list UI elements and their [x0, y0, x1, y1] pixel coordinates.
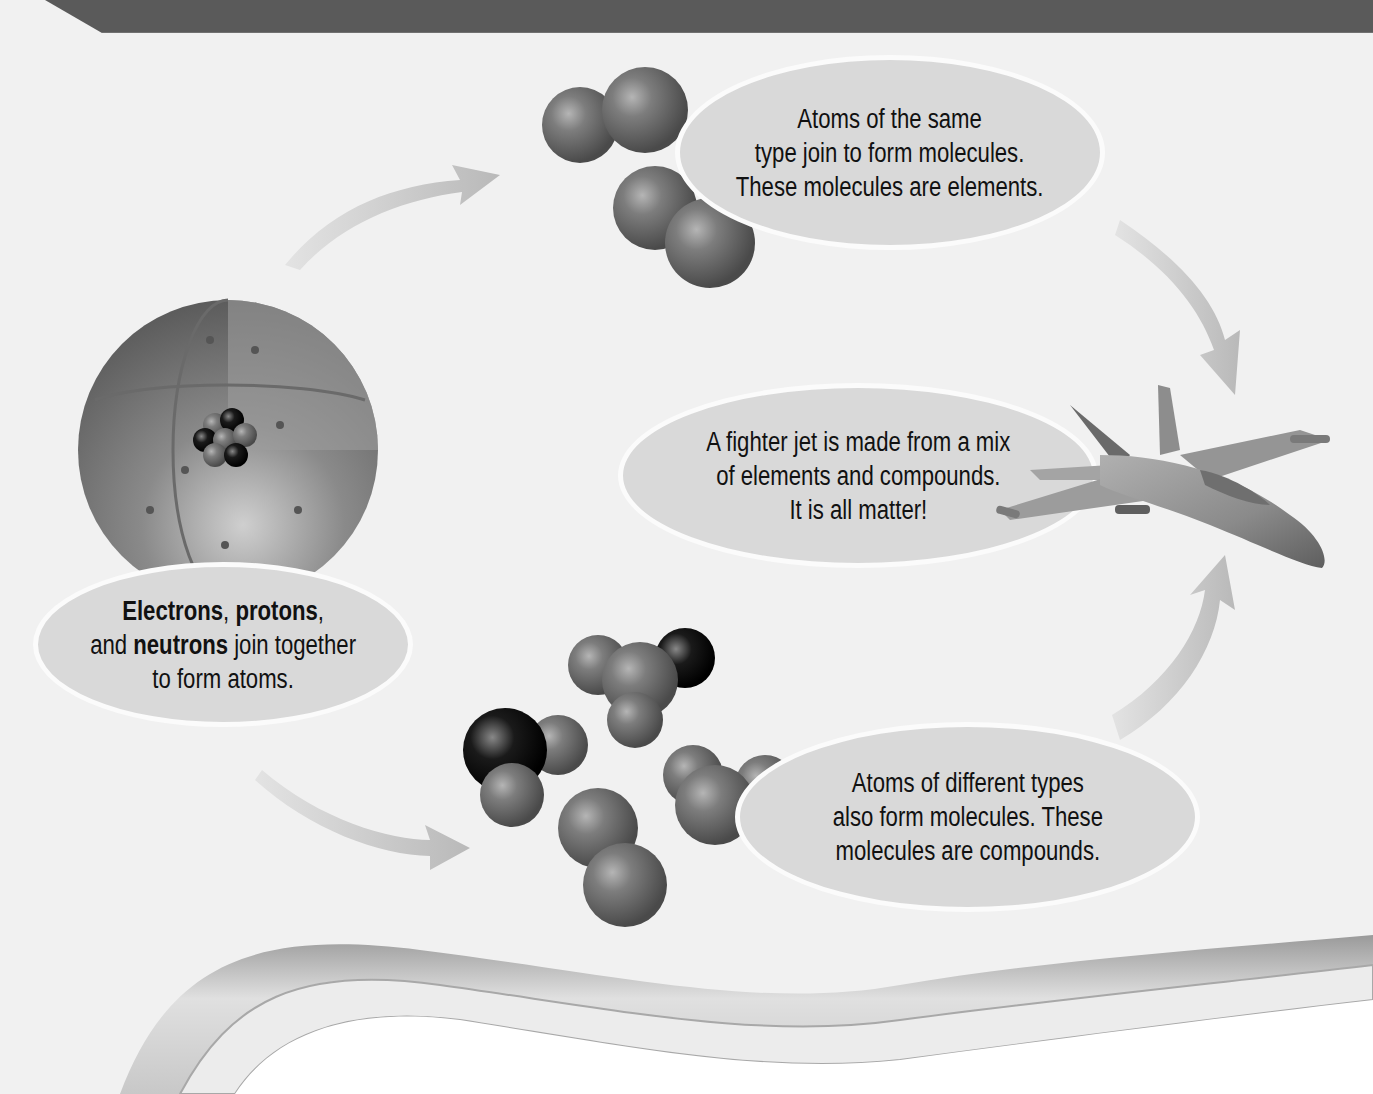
elements-caption-line1: Atoms of the same: [798, 104, 983, 134]
protons-term: protons: [235, 596, 317, 626]
caption-text: join together: [228, 630, 356, 660]
caption-text: ,: [223, 596, 235, 626]
caption-text: ,: [318, 596, 324, 626]
elements-caption-line3: These molecules are elements.: [736, 172, 1044, 202]
electrons-term: Electrons: [122, 596, 223, 626]
elements-caption-line2: type join to form molecules.: [755, 138, 1024, 168]
caption-text: to form atoms.: [152, 664, 293, 694]
neutrons-term: neutrons: [133, 630, 228, 660]
compounds-caption-line2: also form molecules. These: [832, 802, 1102, 832]
compounds-caption-line3: molecules are compounds.: [835, 836, 1100, 866]
compounds-caption-line1: Atoms of different types: [851, 768, 1083, 798]
elements-caption-bubble: Atoms of the same type join to form mole…: [675, 55, 1105, 250]
compounds-caption-bubble: Atoms of different types also form molec…: [735, 722, 1200, 912]
caption-text: and: [90, 630, 133, 660]
atom-caption-bubble: Electrons, protons, and neutrons join to…: [33, 562, 413, 727]
